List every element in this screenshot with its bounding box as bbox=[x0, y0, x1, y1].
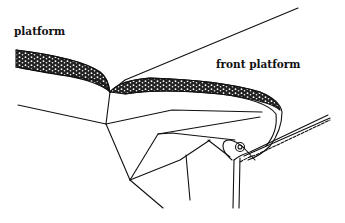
post-left bbox=[233, 160, 234, 208]
left-platform-band bbox=[16, 50, 110, 92]
platform-line-drawing bbox=[0, 0, 345, 223]
front-platform-band bbox=[110, 78, 282, 160]
post-right bbox=[239, 158, 240, 208]
